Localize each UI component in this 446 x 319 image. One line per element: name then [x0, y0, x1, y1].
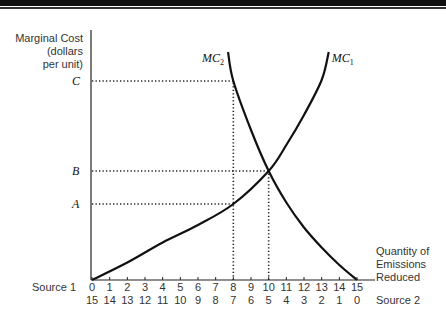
curves: MC1MC2	[92, 51, 357, 280]
x-tick-label-source-1: 9	[248, 281, 254, 293]
curve-mc2	[228, 52, 357, 280]
marginal-cost-chart: MC1MC2 015114213312411510697887961051141…	[0, 0, 446, 319]
x-tick-label-source-2: 9	[195, 294, 201, 306]
x-tick-label-source-1: 12	[298, 281, 310, 293]
guide-lines	[92, 81, 269, 280]
x-tick-label-source-2: 14	[104, 294, 116, 306]
x-axis-label-3: Reduced	[376, 271, 420, 283]
x-tick-label-source-2: 10	[174, 294, 186, 306]
x-tick-label-source-2: 7	[230, 294, 236, 306]
x-tick-label-source-1: 1	[107, 281, 113, 293]
x-tick-label-source-1: 10	[263, 281, 275, 293]
curve-mc1	[92, 52, 329, 280]
axes	[91, 30, 375, 280]
x-tick-label-source-2: 11	[157, 294, 168, 306]
x-tick-label-source-1: 0	[89, 281, 95, 293]
x-tick-label-source-1: 14	[333, 281, 345, 293]
labels: Marginal Cost (dollars per unit) Quantit…	[15, 32, 430, 306]
y-axis-label-2: (dollars	[47, 45, 84, 57]
curve-label-mc2: MC2	[201, 51, 224, 67]
y-level-label-c: C	[72, 74, 81, 88]
y-axis-label-3: per unit)	[43, 58, 83, 70]
x-tick-label-source-2: 0	[354, 294, 360, 306]
x-tick-label-source-1: 15	[351, 281, 363, 293]
curve-label-mc1: MC1	[331, 51, 354, 67]
x-tick-label-source-1: 4	[160, 281, 166, 293]
x-tick-label-source-1: 6	[195, 281, 201, 293]
x-tick-label-source-1: 7	[213, 281, 219, 293]
y-level-label-b: B	[72, 164, 80, 178]
x-tick-label-source-2: 4	[283, 294, 289, 306]
x-tick-label-source-1: 13	[316, 281, 328, 293]
x-tick-label-source-2: 1	[336, 294, 342, 306]
x-axis-label-2: Emissions	[376, 258, 427, 270]
x-tick-label-source-2: 12	[139, 294, 151, 306]
x-tick-label-source-2: 13	[121, 294, 133, 306]
x-tick-label-source-2: 6	[248, 294, 254, 306]
y-level-label-a: A	[71, 197, 80, 211]
x-tick-label-source-1: 2	[124, 281, 130, 293]
x-tick-label-source-2: 8	[213, 294, 219, 306]
source-1-label: Source 1	[32, 281, 76, 293]
y-axis-label-1: Marginal Cost	[15, 32, 83, 44]
x-tick-label-source-1: 5	[177, 281, 183, 293]
x-axis-label-1: Quantity of	[376, 245, 430, 257]
x-tick-label-source-1: 3	[142, 281, 148, 293]
x-tick-label-source-2: 2	[319, 294, 325, 306]
x-tick-label-source-1: 8	[230, 281, 236, 293]
x-tick-label-source-2: 3	[301, 294, 307, 306]
x-ticks: 0151142133124115106978879610511412313214…	[86, 277, 363, 306]
x-tick-label-source-2: 15	[86, 294, 98, 306]
x-tick-label-source-1: 11	[281, 281, 292, 293]
x-tick-label-source-2: 5	[266, 294, 272, 306]
source-2-label: Source 2	[376, 294, 420, 306]
